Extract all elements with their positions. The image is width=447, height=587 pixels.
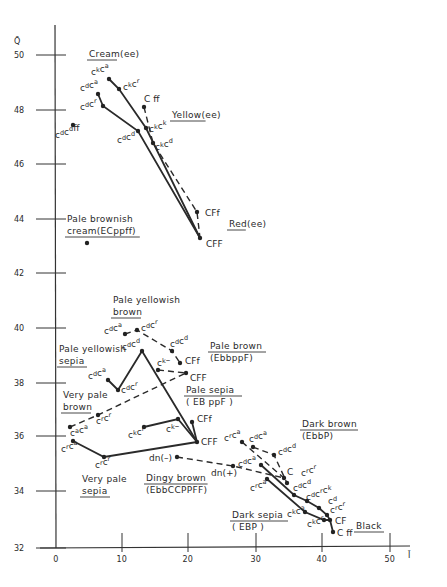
phenotype-cream: Cream(ee) xyxy=(87,49,139,60)
phenotype-pale-yellowish-sepia: Pale yellowishsepia xyxy=(57,344,126,367)
point-marker xyxy=(140,349,144,353)
phenotype-label-line: Dark brown xyxy=(302,419,357,429)
point-marker xyxy=(240,440,244,444)
phenotype-label-line: Pale brown xyxy=(210,341,262,351)
phenotype-label-line: cream(ECppff) xyxy=(67,226,136,236)
genotype-point: C ff xyxy=(331,528,353,538)
genotype-point: ckcr xyxy=(117,77,140,92)
point-marker xyxy=(123,332,127,336)
genotype-label: dn(+) xyxy=(211,468,237,478)
solid-path xyxy=(73,441,197,457)
phenotype-label-line: ( EB ppF ) xyxy=(186,397,233,407)
y-axis xyxy=(55,25,56,548)
phenotype-label-line: (EbbppF) xyxy=(210,353,253,363)
genotype-point: cdca xyxy=(88,366,110,382)
genotype-point: ck– xyxy=(156,355,171,373)
x-axis xyxy=(40,546,410,548)
point-marker xyxy=(325,513,329,517)
genotype-point: crca xyxy=(224,428,244,444)
genotype-point: C ff xyxy=(142,94,160,109)
genotype-point: CFF xyxy=(195,437,218,447)
dashed-path xyxy=(70,373,186,427)
genotype-label: CFF xyxy=(190,373,207,383)
phenotype-pale-sepia: Pale sepia( EB ppF ) xyxy=(184,385,242,407)
genotype-point xyxy=(85,241,89,245)
genotype-label: crcr xyxy=(301,463,317,478)
point-marker xyxy=(117,87,121,91)
genotype-point: ckcr xyxy=(307,514,326,529)
genotype-label: crca xyxy=(224,428,241,443)
point-marker xyxy=(195,210,199,214)
y-tick-label: 40 xyxy=(14,324,24,333)
phenotype-label-line: Pale yellowish xyxy=(113,295,180,305)
genotype-label: CF xyxy=(335,516,346,526)
point-marker xyxy=(184,371,188,375)
x-tick-label: 40 xyxy=(317,555,327,564)
point-marker xyxy=(156,368,160,372)
phenotype-label-line: Very pale xyxy=(82,474,127,484)
y-tick-label: 48 xyxy=(14,106,24,115)
genotype-point: cdcr xyxy=(135,318,158,333)
genotype-label: cdcd xyxy=(117,130,135,145)
point-marker xyxy=(116,388,120,392)
x-tick-label: 50 xyxy=(385,555,395,564)
genotype-label: ckcr xyxy=(123,77,140,92)
genotype-label: crca xyxy=(61,439,78,454)
genotype-label: crcr xyxy=(95,455,111,470)
solid-path xyxy=(108,351,197,442)
y-tick-label: 50 xyxy=(14,51,24,60)
phenotype-label-line: Black xyxy=(356,521,382,531)
genotype-label: cdcr xyxy=(141,318,158,333)
point-marker xyxy=(144,126,148,130)
genotype-point: dn(+) xyxy=(211,464,237,478)
phenotype-label-line: Yellow(ee) xyxy=(171,110,221,120)
genotype-point: crcr xyxy=(96,411,112,426)
phenotype-label-line: sepia xyxy=(82,486,107,496)
phenotype-label-line: (EbbCCPPFF) xyxy=(146,485,207,495)
point-marker xyxy=(272,453,276,457)
phenotype-dingy-brown: Dingy brown(EbbCCPPFF) xyxy=(144,473,208,495)
point-marker xyxy=(135,328,139,332)
point-marker xyxy=(292,493,296,497)
genotype-label: cdcdff xyxy=(55,123,80,140)
point-marker xyxy=(178,361,182,365)
genotype-label: ckcd xyxy=(155,137,173,152)
point-marker xyxy=(198,236,202,240)
genotype-point: cdcdff xyxy=(55,123,80,140)
genotype-label: C ff xyxy=(337,528,353,538)
genotype-label: cdca xyxy=(238,454,256,469)
phenotype-label-line: Pale brownish xyxy=(67,214,133,224)
point-marker xyxy=(282,476,286,480)
genotype-label: ckcr xyxy=(307,514,324,529)
y-ticks: 50484644424038363432 xyxy=(14,51,66,553)
phenotype-very-pale-brown: Very palebrown xyxy=(61,390,108,413)
y-tick-label: 46 xyxy=(14,160,24,169)
point-marker xyxy=(106,378,110,382)
point-marker xyxy=(259,463,263,467)
phenotype-black: Black xyxy=(354,521,384,532)
point-marker xyxy=(328,518,332,522)
dashed-path xyxy=(158,370,186,373)
genotype-label: CFf xyxy=(185,356,200,366)
genotype-point: ckcd xyxy=(151,137,173,152)
genotype-label: cdcd xyxy=(170,334,188,349)
point-marker xyxy=(175,455,179,459)
genotype-label: dn(–) xyxy=(149,453,172,463)
genotype-point: cdcd xyxy=(170,334,188,353)
phenotype-label-line: Cream(ee) xyxy=(89,49,139,59)
phenotype-label-line: Red(ee) xyxy=(229,219,266,229)
y-tick-label: 38 xyxy=(14,379,24,388)
y-axis-label: Q̄ xyxy=(14,36,20,46)
genotype-label: cdcr xyxy=(80,97,97,112)
point-marker xyxy=(285,481,289,485)
point-marker xyxy=(142,105,146,109)
genotype-point: CFf xyxy=(195,208,221,218)
genotype-point: caca xyxy=(68,423,88,438)
phenotype-label-line: (EbbP) xyxy=(302,431,333,441)
genotype-label: C ff xyxy=(144,94,160,104)
point-marker xyxy=(190,420,194,424)
x-tick-label: 20 xyxy=(183,555,193,564)
genetic-color-diagram: 50484644424038363432 01020304050 Q̄ Ī ck… xyxy=(0,0,447,587)
genotype-label: CFF xyxy=(201,437,218,447)
genotype-label: cdca xyxy=(249,429,267,444)
